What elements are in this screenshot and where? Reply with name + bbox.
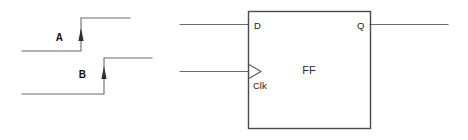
rising-edge-arrow-icon: [78, 28, 83, 41]
clock-edge-triangle-icon: [248, 64, 261, 79]
waveform-a-trace: [22, 18, 130, 51]
diagram-canvas: A B D Clk Q FF: [0, 0, 468, 140]
rising-edge-arrow-icon: [101, 66, 106, 79]
signal-label-a: A: [56, 32, 63, 43]
waveform-signal-a: [22, 18, 130, 51]
flipflop-block-group: D Clk Q FF: [180, 12, 448, 129]
pin-label-clk: Clk: [253, 80, 267, 91]
pin-label-q: Q: [357, 20, 364, 31]
signal-label-b: B: [79, 69, 86, 80]
flipflop-body-label: FF: [302, 64, 316, 76]
waveform-signal-b: [22, 58, 152, 94]
pin-label-d: D: [254, 20, 261, 31]
schematic-diagram: A B D Clk Q FF: [0, 0, 468, 140]
timing-waveform-group: A B: [22, 18, 152, 94]
waveform-b-trace: [22, 58, 152, 94]
